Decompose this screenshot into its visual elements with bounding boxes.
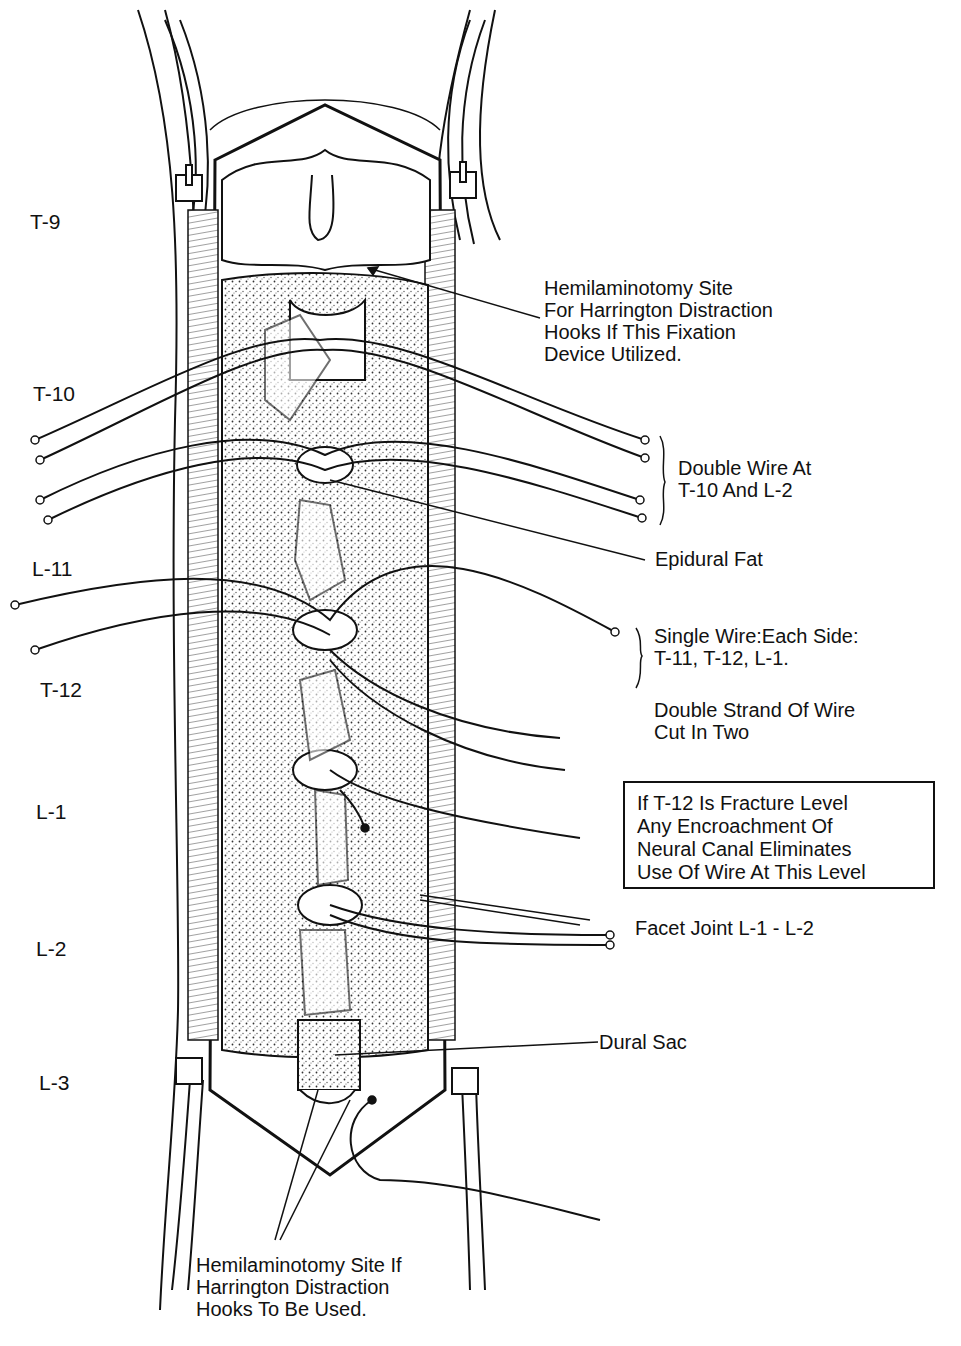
level-label-t12: T-12: [40, 678, 82, 702]
level-label-l3: L-3: [39, 1071, 69, 1095]
annotation-double-wire: Double Wire At T-10 And L-2: [678, 457, 811, 501]
annotation-fracture-note: If T-12 Is Fracture Level Any Encroachme…: [625, 783, 933, 884]
level-label-l1: L-1: [36, 800, 66, 824]
spine-illustration: [0, 0, 961, 1346]
annotation-hemilaminotomy-bottom: Hemilaminotomy Site If Harrington Distra…: [196, 1254, 402, 1320]
annotation-single-wire: Single Wire:Each Side: T-11, T-12, L-1.: [654, 625, 859, 669]
annotation-hemilaminotomy-top: Hemilaminotomy Site For Harrington Distr…: [544, 277, 773, 365]
annotation-dural-sac: Dural Sac: [599, 1031, 687, 1053]
level-label-l2: L-2: [36, 937, 66, 961]
vertebral-column: [222, 273, 428, 1103]
level-label-t10: T-10: [33, 382, 75, 406]
fracture-note-box: If T-12 Is Fracture Level Any Encroachme…: [623, 781, 935, 889]
level-label-t9: T-9: [30, 210, 60, 234]
annotation-epidural-fat: Epidural Fat: [655, 548, 763, 570]
annotation-facet-joint: Facet Joint L-1 - L-2: [635, 917, 814, 939]
annotation-double-strand: Double Strand Of Wire Cut In Two: [654, 699, 855, 743]
level-label-l11: L-11: [32, 557, 72, 581]
